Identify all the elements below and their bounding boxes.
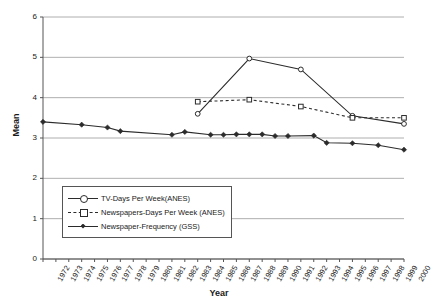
y-tick-label: 2 [19,173,37,182]
y-tick-label: 6 [19,12,37,21]
data-point [350,141,355,146]
data-point [208,132,213,137]
data-point [260,132,265,137]
legend-key-open-circle-icon [68,193,98,203]
data-point [402,116,407,121]
plot-area [0,0,438,307]
data-point [376,143,381,148]
chart-legend: TV-Days Per Week(ANES) Newspapers-Days P… [62,186,232,238]
data-point [195,99,200,104]
y-tick-label: 4 [19,93,37,102]
legend-key-solid-diamond-icon [68,221,98,231]
data-point [221,132,226,137]
data-point [247,132,252,137]
y-tick-label: 1 [19,214,37,223]
data-point [234,132,239,137]
data-point [298,67,303,72]
legend-item-tv-days: TV-Days Per Week(ANES) [68,191,225,205]
data-point [195,111,200,116]
chart-container: Mean Year 0123456 1972197319741975197619… [0,0,438,307]
data-point [401,147,406,152]
legend-label: TV-Days Per Week(ANES) [101,194,190,203]
data-point [247,56,252,61]
data-point [324,140,329,145]
data-point [79,122,84,127]
legend-item-newspapers-days: Newspapers-Days Per Week (ANES) [68,205,225,219]
y-tick-label: 5 [19,52,37,61]
data-point [311,133,316,138]
data-point [40,119,45,124]
data-point [350,116,355,121]
data-point [182,129,187,134]
legend-item-newspaper-frequency: Newspaper-Frequency (GSS) [68,219,225,233]
data-point [169,132,174,137]
legend-key-open-square-icon [68,207,98,217]
y-tick-label: 3 [19,133,37,142]
y-tick-label: 0 [19,254,37,263]
legend-label: Newspaper-Frequency (GSS) [101,222,200,231]
legend-label: Newspapers-Days Per Week (ANES) [101,208,225,217]
data-point [118,129,123,134]
data-point [105,125,110,130]
data-point [247,97,252,102]
data-point [402,121,407,126]
data-point [299,104,304,109]
